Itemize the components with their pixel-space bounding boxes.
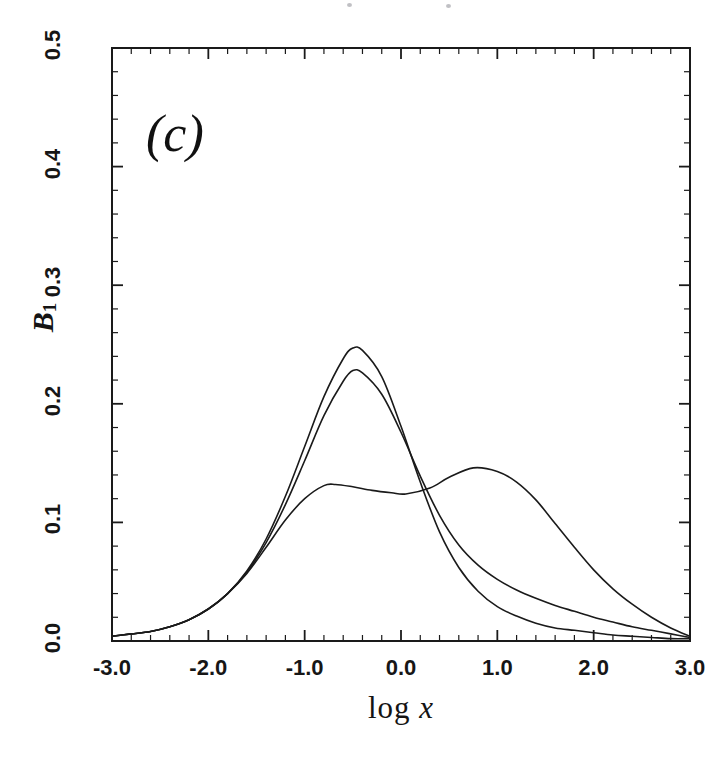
x-tick-label: -1.0 <box>270 655 340 681</box>
y-tick-label: 0.5 <box>40 9 66 81</box>
figure-panel-c: (c) B1 log x -3.0-2.0-1.00.01.02.03.00.0… <box>0 0 727 762</box>
axes-frame <box>112 48 690 641</box>
axis-ticks <box>112 48 690 641</box>
x-tick-label: -3.0 <box>77 655 147 681</box>
x-tick-label: 2.0 <box>559 655 629 681</box>
plot-canvas <box>0 0 727 762</box>
x-tick-label: 0.0 <box>366 655 436 681</box>
x-tick-label: 1.0 <box>462 655 532 681</box>
y-tick-label: 0.2 <box>40 365 66 437</box>
curve-curve-1-tall-unimodal <box>112 347 690 639</box>
curve-curve-2-unimodal <box>112 370 690 638</box>
x-tick-label: 3.0 <box>655 655 725 681</box>
y-tick-label: 0.1 <box>40 483 66 555</box>
curve-curve-3-bimodal <box>112 468 690 637</box>
data-curves <box>112 347 690 639</box>
y-tick-label: 0.0 <box>40 602 66 674</box>
y-tick-label: 0.4 <box>40 128 66 200</box>
y-tick-label: 0.3 <box>40 246 66 318</box>
x-tick-label: -2.0 <box>173 655 243 681</box>
